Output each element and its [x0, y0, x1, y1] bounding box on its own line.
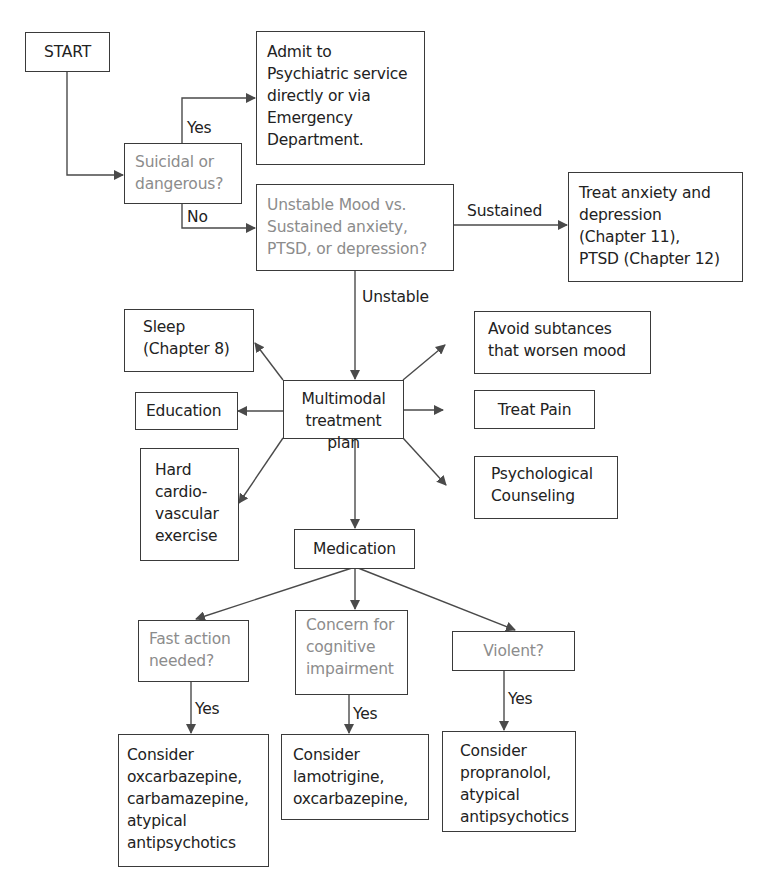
psychological-counseling-node: Psychological Counseling: [474, 456, 618, 519]
violent-question-node: Violent?: [452, 631, 575, 671]
edge-label-yes-fast: Yes: [195, 700, 219, 718]
sleep-node: Sleep (Chapter 8): [124, 309, 254, 372]
consider-propranolol-node: Consider propranolol, atypical antipsych…: [442, 731, 576, 832]
cognitive-impairment-question-node: Concern for cognitive impairment: [295, 610, 408, 695]
edge-label-yes-cognitive: Yes: [353, 705, 377, 723]
exercise-node: Hard cardio- vascular exercise: [140, 448, 239, 561]
education-node: Education: [135, 392, 238, 430]
treat-pain-node: Treat Pain: [474, 390, 595, 429]
edge-label-unstable: Unstable: [362, 288, 429, 306]
flowchart-canvas: START Admit to Psychiatric service direc…: [0, 0, 777, 895]
suicidal-question-node: Suicidal or dangerous?: [124, 143, 242, 204]
avoid-substances-node: Avoid subtances that worsen mood: [474, 311, 651, 374]
edge-label-sustained: Sustained: [467, 202, 542, 220]
consider-lamotrigine-node: Consider lamotrigine, oxcarbazepine,: [281, 734, 429, 820]
edge-label-no: No: [187, 208, 208, 226]
fast-action-question-node: Fast action needed?: [138, 620, 249, 682]
start-node: START: [25, 32, 110, 72]
edge-label-yes-admit: Yes: [187, 119, 211, 137]
edge-label-yes-violent: Yes: [508, 690, 532, 708]
medication-node: Medication: [294, 529, 415, 569]
multimodal-treatment-plan-node: Multimodal treatment plan: [283, 380, 404, 439]
consider-oxcarbazepine-carbamazepine-node: Consider oxcarbazepine, carbamazepine, a…: [118, 734, 269, 867]
admit-psychiatric-node: Admit to Psychiatric service directly or…: [256, 31, 425, 165]
unstable-vs-sustained-question-node: Unstable Mood vs. Sustained anxiety, PTS…: [256, 184, 454, 271]
treat-anxiety-depression-node: Treat anxiety and depression (Chapter 11…: [568, 172, 743, 282]
